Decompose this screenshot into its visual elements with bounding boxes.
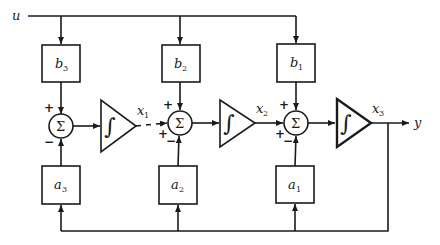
svg-text:a: a xyxy=(171,177,179,192)
arrow-x1-to-sum2 xyxy=(136,123,167,126)
summing-junction-1: Σ + − xyxy=(44,101,73,149)
svg-text:∫: ∫ xyxy=(223,111,235,136)
svg-text:1: 1 xyxy=(144,111,149,120)
svg-text:∫: ∫ xyxy=(340,111,352,136)
svg-text:+: + xyxy=(163,98,173,112)
svg-text:3: 3 xyxy=(62,185,67,194)
gain-block-a2: a 2 xyxy=(159,166,197,204)
svg-text:Σ: Σ xyxy=(175,116,184,131)
svg-text:Σ: Σ xyxy=(291,116,300,131)
svg-text:3: 3 xyxy=(379,109,384,118)
svg-text:−: − xyxy=(166,134,176,148)
svg-text:1: 1 xyxy=(296,185,301,194)
arrow-a2-to-sum2 xyxy=(178,136,179,166)
svg-text:2: 2 xyxy=(179,185,184,194)
gain-block-b2: b 2 xyxy=(162,45,200,82)
input-label-u: u xyxy=(12,8,20,23)
svg-text:a: a xyxy=(288,177,296,192)
svg-text:2: 2 xyxy=(263,109,268,118)
integrator-2: ∫ xyxy=(220,100,255,147)
gain-block-b3: b 3 xyxy=(42,45,80,82)
svg-text:−: − xyxy=(44,135,54,149)
gain-block-a3: a 3 xyxy=(42,166,80,204)
svg-text:3: 3 xyxy=(63,64,68,73)
svg-text:∫: ∫ xyxy=(104,114,116,139)
summing-junction-2: Σ + + − xyxy=(158,98,192,148)
gain-block-a1: a 1 xyxy=(276,166,314,203)
integrator-1: ∫ xyxy=(101,100,136,152)
output-label-y: y xyxy=(413,115,422,130)
svg-text:2: 2 xyxy=(182,64,187,73)
svg-text:+: + xyxy=(279,98,289,112)
svg-text:1: 1 xyxy=(298,63,303,72)
arrow-a1-to-sum3 xyxy=(295,136,296,166)
svg-text:+: + xyxy=(44,101,54,115)
svg-text:Σ: Σ xyxy=(56,119,65,134)
svg-text:−: − xyxy=(283,134,293,148)
svg-text:a: a xyxy=(54,177,62,192)
integrator-3: ∫ xyxy=(337,99,371,147)
block-diagram: u b 3 b 2 b 1 Σ + − ∫ x 1 Σ + xyxy=(0,0,440,245)
gain-block-b1: b 1 xyxy=(277,44,315,82)
